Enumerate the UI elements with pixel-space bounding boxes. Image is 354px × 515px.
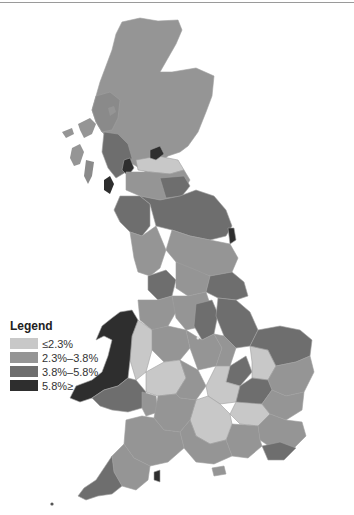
- island-dot: [50, 502, 53, 505]
- legend-item: 5.8%≥: [10, 379, 98, 392]
- legend-swatch: [10, 380, 38, 391]
- region-small-light: [197, 337, 200, 340]
- legend-label: ≤2.3%: [42, 338, 73, 350]
- legend-swatch: [10, 338, 38, 349]
- legend-swatch: [10, 366, 38, 377]
- legend-label: 3.8%–5.8%: [42, 366, 98, 378]
- legend-item: 2.3%–3.8%: [10, 351, 98, 364]
- legend-label: 2.3%–3.8%: [42, 352, 98, 364]
- region-northern-england: [114, 190, 248, 300]
- legend-item: ≤2.3%: [10, 337, 98, 350]
- legend: Legend ≤2.3% 2.3%–3.8% 3.8%–5.8% 5.8%≥: [10, 319, 98, 393]
- choropleth-map: [0, 0, 354, 515]
- legend-label: 5.8%≥: [42, 380, 73, 392]
- legend-swatch: [10, 352, 38, 363]
- legend-item: 3.8%–5.8%: [10, 365, 98, 378]
- legend-title: Legend: [10, 319, 98, 333]
